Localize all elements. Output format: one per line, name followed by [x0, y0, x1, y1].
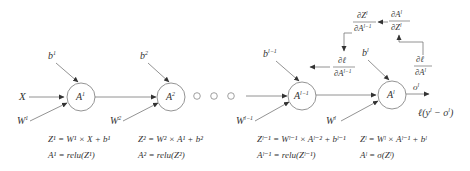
- bl1-label: bl−1: [263, 48, 277, 59]
- svg-text:∂Al−1: ∂Al−1: [334, 68, 352, 78]
- svg-text:∂ℓ: ∂ℓ: [338, 55, 346, 65]
- svg-text:∂Zl: ∂Zl: [357, 10, 368, 20]
- b1-label: b1: [48, 50, 56, 61]
- loss-label: ℓ(yl − ol): [418, 107, 454, 119]
- grad-dZ-dA-prev: ∂Zl ∂Al−1: [353, 10, 376, 33]
- wl-to-al-arrow: [341, 101, 378, 121]
- equation-z1: Z¹ = W¹ × X + b¹: [48, 134, 111, 144]
- equation-a1: A¹ = relu(Z¹): [47, 150, 95, 160]
- input-x-label: X: [18, 90, 27, 102]
- equation-zl-minus-1: Zˡ⁻¹ = Wˡ⁻¹ × Aˡ⁻² + bˡ⁻¹: [257, 134, 346, 144]
- ellipsis-dot: [194, 93, 201, 100]
- w1-to-a1-arrow: [30, 103, 67, 121]
- ellipsis-dot: [228, 93, 235, 100]
- dl-dA-to-dA-dZ-arrow: [399, 35, 423, 55]
- equation-a2: A² = relu(Z²): [137, 150, 185, 160]
- svg-text:∂ℓ: ∂ℓ: [416, 54, 424, 64]
- output-label: ol: [413, 82, 420, 92]
- svg-text:∂Zl: ∂Zl: [391, 22, 402, 32]
- bl-to-al-arrow: [368, 60, 389, 80]
- grad-dl-dA-prev: ∂ℓ ∂Al−1: [333, 55, 355, 78]
- svg-text:∂Al−1: ∂Al−1: [354, 23, 372, 33]
- grad-dl-dA: ∂ℓ ∂Al: [414, 54, 432, 77]
- equation-al-minus-1: Aˡ⁻¹ = relu(Zˡ⁻¹): [256, 150, 316, 160]
- bl-label: bl: [362, 47, 369, 58]
- w2-label: W2: [110, 115, 121, 126]
- wl1-label: Wl−1: [236, 115, 253, 126]
- ellipsis-dots: [194, 93, 287, 100]
- ellipsis-dot: [211, 93, 218, 100]
- equation-z2: Z² = W² × A¹ + b²: [138, 134, 203, 144]
- svg-text:∂Al: ∂Al: [391, 9, 402, 19]
- wl-label: Wl: [326, 115, 336, 126]
- w1-label: W1: [17, 115, 28, 126]
- b2-label: b2: [140, 50, 148, 61]
- equation-zl: Zˡ = Wˡ × Aˡ⁻¹ + bˡ: [360, 134, 427, 144]
- backprop-gradients: ∂Al ∂Zl ∂Zl ∂Al−1 ∂ℓ ∂Al ∂ℓ ∂Al−1: [310, 9, 432, 78]
- layer-2: W2 b2 A2: [110, 50, 185, 126]
- b2-to-a2-arrow: [148, 63, 169, 82]
- node-al-minus-1: [288, 82, 316, 110]
- neural-network-backprop-diagram: X W1 b1 A1 W2 b2 A2 Wl−1 bl−1 Al−1: [0, 0, 470, 171]
- svg-text:∂Al: ∂Al: [415, 67, 426, 77]
- dZ-dA-to-dl-dAprev-arrow: [344, 33, 352, 51]
- w2-to-a2-arrow: [123, 103, 158, 121]
- grad-dA-dZ: ∂Al ∂Zl: [389, 9, 410, 32]
- wl1-to-al1-arrow: [255, 102, 289, 121]
- equation-al: Aˡ = σ(Zˡ): [359, 150, 394, 160]
- layer-l-minus-1: Wl−1 bl−1 Al−1: [236, 48, 376, 126]
- equations: Z¹ = W¹ × X + b¹ A¹ = relu(Z¹) Z² = W² ×…: [47, 134, 427, 160]
- b1-to-a1-arrow: [56, 63, 78, 82]
- bl1-to-al1-arrow: [276, 61, 299, 81]
